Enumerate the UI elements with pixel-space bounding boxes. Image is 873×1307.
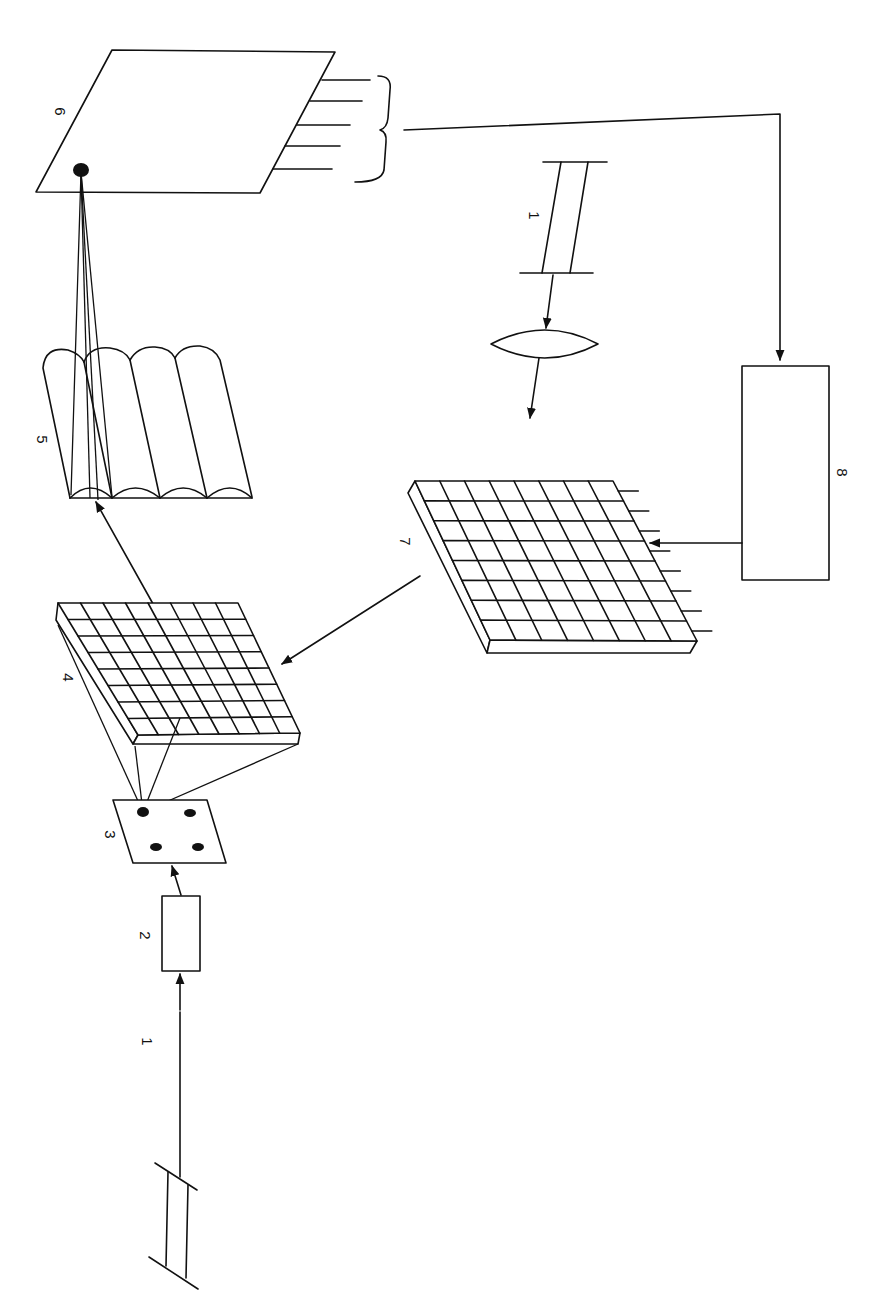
box-2 [162, 896, 200, 971]
arrow-lens-to-7 [530, 358, 539, 418]
label-1-bottom: 1 [140, 1037, 155, 1045]
line-6-to-8 [404, 114, 780, 360]
detector-plate-6 [36, 50, 390, 193]
label-2: 2 [138, 931, 153, 939]
label-7: 7 [398, 537, 413, 545]
grid-array-7 [408, 481, 712, 653]
box-8 [742, 366, 829, 580]
arrow-4-to-5 [96, 502, 157, 611]
label-5: 5 [35, 435, 50, 443]
lens [491, 330, 598, 358]
source-1-bottom [149, 1012, 198, 1289]
label-1-top: 1 [527, 211, 542, 219]
arrow-2-to-3 [172, 866, 181, 895]
label-8: 8 [835, 468, 850, 476]
label-6: 6 [53, 107, 68, 115]
grid-array-4 [56, 603, 300, 812]
optical-system-diagram [0, 0, 873, 1307]
arrow-1-to-lens [546, 275, 553, 328]
pins-brace [355, 76, 390, 182]
label-3: 3 [103, 830, 118, 838]
label-4: 4 [61, 673, 76, 681]
plate-3 [113, 800, 226, 863]
arrow-7-to-4 [282, 576, 420, 664]
rays-5-to-6 [71, 172, 112, 500]
